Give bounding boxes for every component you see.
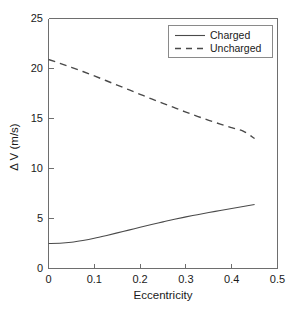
y-tick-label-10: 10 <box>31 162 43 174</box>
y-tick-label-5: 5 <box>37 212 43 224</box>
chart-legend: Charged Uncharged <box>169 26 273 58</box>
y-tick-label-25: 25 <box>31 12 43 24</box>
series-line-charged <box>49 205 255 244</box>
plot-axes <box>49 19 278 269</box>
y-tick-label-0: 0 <box>37 262 43 274</box>
x-tick-label-0-2: 0.2 <box>132 273 147 285</box>
legend-label-charged: Charged <box>210 29 250 41</box>
data-series-group <box>49 60 255 244</box>
y-tick-label-20: 20 <box>31 62 43 74</box>
y-axis-title: Δ V (m/s) <box>8 123 20 170</box>
y-tick-labels: 25 20 15 10 5 0 <box>31 12 43 274</box>
delta-v-eccentricity-chart: 25 20 15 10 5 0 0 0.1 0.2 0.3 0.4 0.5 Ec… <box>0 0 296 311</box>
x-tick-labels: 0 0.1 0.2 0.3 0.4 0.5 <box>45 273 285 285</box>
series-line-uncharged <box>49 60 255 139</box>
y-tick-marks <box>49 19 54 269</box>
y-tick-label-15: 15 <box>31 112 43 124</box>
x-tick-label-0-1: 0.1 <box>87 273 102 285</box>
x-tick-label-0-3: 0.3 <box>178 273 193 285</box>
x-axis-title: Eccentricity <box>134 289 193 301</box>
legend-label-uncharged: Uncharged <box>210 42 262 54</box>
x-tick-label-0-4: 0.4 <box>224 273 239 285</box>
chart-figure: 25 20 15 10 5 0 0 0.1 0.2 0.3 0.4 0.5 Ec… <box>0 0 296 311</box>
x-tick-marks <box>49 264 278 269</box>
x-tick-label-0-5: 0.5 <box>270 273 285 285</box>
x-tick-label-0: 0 <box>45 273 51 285</box>
